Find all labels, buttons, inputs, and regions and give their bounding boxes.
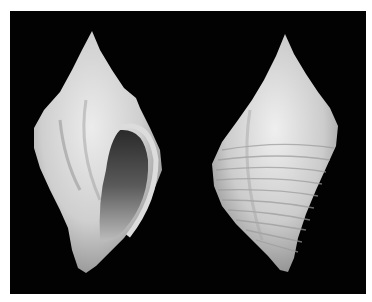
shell-apertural-view: [34, 31, 162, 273]
shell-photo: [0, 0, 372, 302]
shell-dorsal-view: [212, 34, 338, 272]
